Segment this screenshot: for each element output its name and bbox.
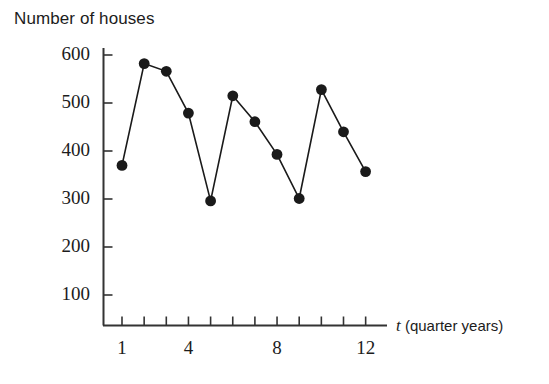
x-axis-tick-label: 1 [102,337,142,359]
x-axis-label-variable: t [396,316,401,335]
y-axis-tick-label: 100 [20,283,90,305]
x-axis-tick-label: 4 [168,337,208,359]
data-point: 3: 566 [161,66,172,77]
data-point: 10: 528 [316,84,327,95]
chart-container: Number of houses 1: 3702: 5823: 5664: 47… [0,0,549,384]
x-axis-ticks [122,317,366,326]
data-point: 1: 370 [117,160,128,171]
data-point: 4: 479 [183,108,194,119]
data-series-line [122,64,366,201]
y-axis-tick-label: 600 [20,43,90,65]
data-series-markers: 1: 3702: 5823: 5664: 4795: 2966: 5157: 4… [117,58,371,206]
y-axis-tick-label: 400 [20,139,90,161]
data-point: 2: 582 [139,58,150,69]
y-axis-ticks [104,55,113,295]
x-axis-label: t (quarter years) [396,316,503,336]
data-point: 11: 440 [338,126,349,137]
y-axis-tick-label: 300 [20,187,90,209]
data-point: 7: 461 [250,116,261,127]
data-point: 12: 357 [360,166,371,177]
y-axis-tick-label: 200 [20,235,90,257]
x-axis-tick-label: 12 [346,337,386,359]
data-point: 5: 296 [205,196,216,207]
data-point: 8: 393 [272,149,283,160]
data-point: 6: 515 [227,90,238,101]
axis-lines [103,48,387,326]
y-axis-tick-label: 500 [20,91,90,113]
x-axis-tick-label: 8 [257,337,297,359]
x-axis-label-units: (quarter years) [405,317,503,334]
data-point: 9: 301 [294,193,305,204]
